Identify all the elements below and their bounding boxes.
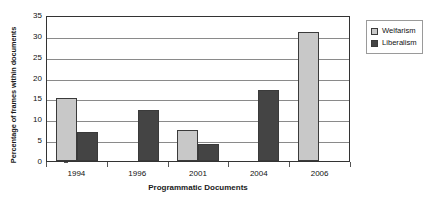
bar-liberalism-1996 [138,110,159,161]
bar-group-2001 [168,17,228,161]
legend-swatch-icon [371,28,378,35]
plot-area [46,16,350,162]
bar-group-1994 [47,17,107,161]
x-axis-tick-marks [46,162,350,167]
x-axis-tick-mark [350,162,351,167]
y-axis-tick-label: 5 [22,137,42,145]
x-axis-tick-mark [228,162,229,167]
x-axis-tick-mark [107,162,108,167]
y-axis-tick-label: 10 [22,116,42,124]
bar-group-2004 [228,17,288,161]
x-axis-tick-label: 2001 [168,168,229,180]
x-axis-tick-label: 2006 [289,168,350,180]
x-axis-tick-label: 1996 [107,168,168,180]
bars-layer [47,17,349,161]
bar-group-2006 [289,17,349,161]
bar-liberalism-2004 [258,90,279,161]
y-axis-tick-label: 25 [22,54,42,62]
bar-welfarism-1994 [56,98,77,161]
y-axis-tick-label: 20 [22,75,42,83]
y-axis-tick-labels: 05101520253035 [22,16,42,162]
y-axis-tick-label: 30 [22,33,42,41]
x-axis-tick-mark [168,162,169,167]
chart-legend: WelfarismLiberalism [366,20,423,54]
legend-item-welfarism[interactable]: Welfarism [371,25,417,37]
x-axis-tick-label: 2004 [228,168,289,180]
x-axis-tick-label: 1994 [46,168,107,180]
x-axis-tick-mark [289,162,290,167]
legend-item-liberalism[interactable]: Liberalism [371,37,417,49]
bar-welfarism-2001 [177,130,198,161]
legend-label: Liberalism [382,37,417,49]
x-axis-title: Programmatic Documents [46,182,350,194]
bar-chart: Percentage of frames within documents 05… [0,0,447,200]
bar-liberalism-1994 [77,132,98,161]
bar-liberalism-2001 [198,144,219,161]
x-axis-tick-mark [46,162,47,167]
y-axis-tick-label: 15 [22,95,42,103]
x-axis-tick-labels: 19941996200120042006 [46,168,350,180]
bar-group-1996 [107,17,167,161]
y-axis-title: Percentage of frames within documents [7,10,21,180]
bar-welfarism-2006 [298,32,319,161]
legend-label: Welfarism [382,25,416,37]
y-axis-tick-label: 35 [22,12,42,20]
legend-swatch-icon [371,40,378,47]
y-axis-tick-label: 0 [22,158,42,166]
